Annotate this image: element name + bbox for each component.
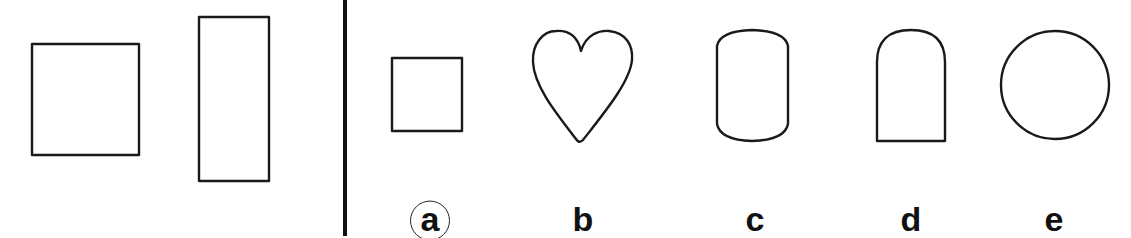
- option-c-label[interactable]: c: [725, 202, 785, 236]
- option-b-label-text: b: [573, 200, 594, 238]
- question-rectangle-shape: [199, 17, 269, 181]
- question-square-shape: [32, 44, 139, 155]
- option-c-barrel-shape[interactable]: [717, 30, 788, 141]
- option-d-arch-shape[interactable]: [877, 30, 945, 141]
- option-e-label-text: e: [1045, 200, 1064, 238]
- divider-line: [343, 0, 347, 236]
- option-a-square-shape[interactable]: [392, 58, 462, 131]
- option-b-heart-shape[interactable]: [533, 31, 632, 142]
- option-d-label-text: d: [901, 200, 922, 238]
- option-c-label-text: c: [746, 200, 765, 238]
- option-a-label-text: a: [421, 200, 440, 238]
- figure-stage: a b c d e: [0, 0, 1131, 238]
- option-b-label[interactable]: b: [553, 202, 613, 236]
- option-d-label[interactable]: d: [881, 202, 941, 236]
- option-e-label[interactable]: e: [1024, 202, 1084, 236]
- option-e-circle-shape[interactable]: [1001, 31, 1109, 139]
- option-a-label[interactable]: a: [400, 202, 460, 236]
